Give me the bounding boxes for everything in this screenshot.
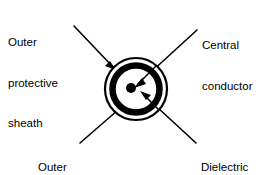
label-central-conductor-line1: Central bbox=[202, 39, 253, 53]
leader-outer-protective-sheath bbox=[74, 26, 116, 70]
leader-line-outer-braid bbox=[80, 110, 118, 143]
label-central-conductor: Central conductor bbox=[202, 12, 253, 120]
central-conductor-dot bbox=[126, 83, 136, 93]
label-outer-braid-line1: Outer bbox=[38, 161, 67, 175]
label-outer-protective-sheath-line3: sheath bbox=[8, 117, 58, 131]
label-outer-braid: Outer braid bbox=[38, 134, 67, 175]
label-outer-protective-sheath-line2: protective bbox=[8, 77, 58, 91]
leader-outer-braid bbox=[80, 110, 118, 143]
label-outer-protective-sheath-line1: Outer bbox=[8, 36, 58, 50]
label-dielectric-spacing-line1: Dielectric bbox=[201, 161, 248, 175]
dielectric-spacing-region bbox=[117, 70, 155, 108]
coax-cable-diagram: Outer protective sheath Central conducto… bbox=[0, 0, 271, 175]
label-central-conductor-line2: conductor bbox=[202, 80, 253, 94]
leader-line-outer-protective-sheath bbox=[74, 26, 113, 67]
label-dielectric-spacing: Dielectric spacing bbox=[201, 134, 248, 175]
